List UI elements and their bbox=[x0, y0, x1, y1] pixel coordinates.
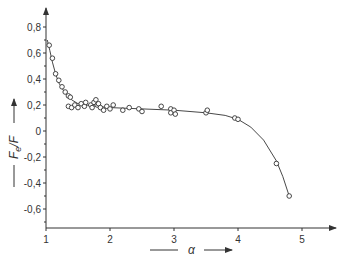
data-point bbox=[159, 104, 164, 109]
data-point bbox=[108, 107, 113, 112]
y-tick-label: 0 bbox=[35, 126, 41, 137]
y-axis-label: Fe/F bbox=[7, 135, 23, 159]
data-point bbox=[60, 85, 65, 90]
y-tick-label: -0,4 bbox=[24, 178, 42, 189]
data-point bbox=[127, 105, 132, 110]
data-point bbox=[53, 72, 58, 77]
data-point bbox=[111, 103, 116, 108]
x-axis-label: α bbox=[188, 243, 196, 257]
data-point bbox=[47, 43, 52, 48]
data-points bbox=[47, 43, 292, 198]
x-tick-label: 4 bbox=[235, 234, 241, 245]
data-point bbox=[173, 112, 178, 117]
y-tick-label: -0,2 bbox=[24, 152, 42, 163]
y-tick-label: 0,8 bbox=[27, 22, 41, 33]
x-tick-label: 5 bbox=[299, 234, 305, 245]
y-axis-label-group: Fe/F bbox=[7, 99, 23, 187]
data-point bbox=[205, 108, 210, 113]
y-tick-label: 0,6 bbox=[27, 48, 41, 59]
data-point bbox=[101, 108, 106, 113]
data-point bbox=[68, 95, 73, 100]
data-point bbox=[236, 117, 241, 122]
data-point bbox=[121, 108, 126, 113]
y-tick-label: 0,4 bbox=[27, 74, 41, 85]
data-point bbox=[274, 161, 279, 166]
data-point bbox=[90, 105, 95, 110]
x-tick-label: 3 bbox=[171, 234, 177, 245]
fitted-curve bbox=[47, 40, 289, 196]
axes bbox=[46, 8, 336, 228]
data-point bbox=[76, 105, 81, 110]
data-point bbox=[140, 109, 145, 114]
data-point bbox=[83, 100, 88, 105]
data-point bbox=[50, 56, 55, 61]
x-tick-label: 1 bbox=[43, 234, 49, 245]
x-tick-label: 2 bbox=[107, 234, 113, 245]
data-point bbox=[57, 78, 62, 83]
chart: 0,80,60,40,20-0,2-0,4-0,612345 α Fe/F bbox=[0, 0, 340, 262]
curve-path bbox=[47, 40, 289, 196]
y-tick-label: -0,6 bbox=[24, 204, 42, 215]
data-point bbox=[63, 90, 68, 95]
y-tick-label: 0,2 bbox=[27, 100, 41, 111]
data-point bbox=[287, 194, 292, 199]
ticks: 0,80,60,40,20-0,2-0,4-0,612345 bbox=[24, 22, 305, 245]
